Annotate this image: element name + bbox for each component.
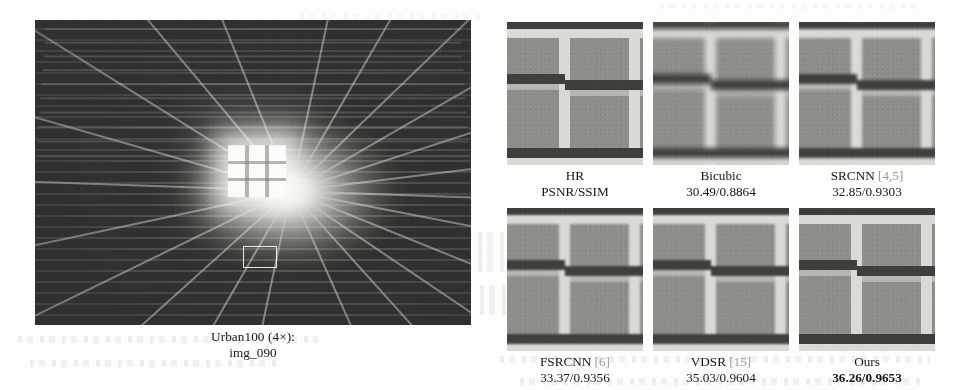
patch-citation: [15] [729, 354, 751, 369]
patch-method-name: Ours [854, 354, 880, 369]
patch-citation: [6] [595, 354, 610, 369]
patch-metric-value: 35.03/0.9604 [641, 370, 801, 386]
patch-image-bicubic[interactable] [653, 22, 789, 165]
patch-scan-noise [653, 22, 789, 165]
reference-image-block [35, 20, 471, 325]
patch-metric-value: 30.49/0.8864 [641, 184, 801, 200]
patch-metric-value: 36.26/0.9653 [787, 370, 947, 386]
patch-caption-ours: Ours36.26/0.9653 [787, 354, 947, 385]
patch-caption-hr: HRPSNR/SSIM [495, 168, 655, 199]
reference-image-id: img_090 [35, 345, 471, 361]
patch-image-fsrcnn[interactable] [507, 208, 643, 351]
patch-image-vdsr[interactable] [653, 208, 789, 351]
patch-metric-value: PSNR/SSIM [495, 184, 655, 200]
patch-comparison-grid: HRPSNR/SSIMBicubic30.49/0.8864SRCNN [4,5… [507, 22, 959, 374]
patch-cell-hr: HRPSNR/SSIM [507, 22, 643, 165]
patch-metric-value: 32.85/0.9303 [787, 184, 947, 200]
patch-scan-noise [799, 208, 935, 351]
patch-cell-vdsr: VDSR [15]35.03/0.9604 [653, 208, 789, 351]
patch-scan-noise [799, 22, 935, 165]
reference-photo [35, 20, 471, 325]
figure-container: Urban100 (4×): img_090 HRPSNR/SSIMBicubi… [0, 0, 966, 390]
photo-scan-noise [35, 20, 471, 325]
patch-metric-value: 33.37/0.9356 [495, 370, 655, 386]
patch-caption-srcnn: SRCNN [4,5]32.85/0.9303 [787, 168, 947, 199]
patch-cell-ours: Ours36.26/0.9653 [799, 208, 935, 351]
patch-scan-noise [507, 208, 643, 351]
patch-method-name: SRCNN [831, 168, 875, 183]
patch-citation: [4,5] [878, 168, 903, 183]
patch-caption-bicubic: Bicubic30.49/0.8864 [641, 168, 801, 199]
patch-image-hr[interactable] [507, 22, 643, 165]
patch-image-srcnn[interactable] [799, 22, 935, 165]
patch-method-name: HR [566, 168, 584, 183]
patch-image-ours[interactable] [799, 208, 935, 351]
patch-scan-noise [653, 208, 789, 351]
patch-method-name: FSRCNN [540, 354, 591, 369]
patch-cell-srcnn: SRCNN [4,5]32.85/0.9303 [799, 22, 935, 165]
patch-method-name: VDSR [691, 354, 726, 369]
patch-scan-noise [507, 22, 643, 165]
patch-cell-fsrcnn: FSRCNN [6]33.37/0.9356 [507, 208, 643, 351]
patch-caption-vdsr: VDSR [15]35.03/0.9604 [641, 354, 801, 385]
patch-method-name: Bicubic [700, 168, 741, 183]
patch-caption-fsrcnn: FSRCNN [6]33.37/0.9356 [495, 354, 655, 385]
patch-cell-bicubic: Bicubic30.49/0.8864 [653, 22, 789, 165]
reference-caption: Urban100 (4×): img_090 [35, 329, 471, 360]
reference-dataset-label: Urban100 (4×): [211, 329, 295, 344]
